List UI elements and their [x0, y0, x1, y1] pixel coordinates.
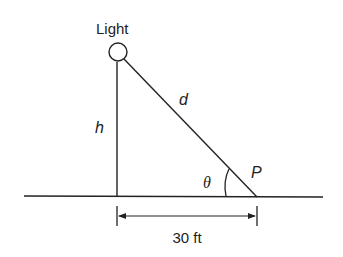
light-label: Light [96, 20, 129, 37]
light-pole-diagram: Light d h θ P 30 ft [0, 0, 343, 257]
point-label: P [251, 164, 262, 181]
hypotenuse-line [124, 59, 257, 197]
ground-line [24, 196, 323, 197]
distance-label: 30 ft [172, 229, 202, 246]
angle-arc [225, 169, 229, 196]
hypotenuse-label: d [179, 91, 189, 108]
arrowhead-left-icon [118, 213, 126, 219]
dimension-marker [117, 206, 257, 226]
angle-label: θ [203, 174, 211, 191]
arrowhead-right-icon [248, 213, 256, 219]
height-label: h [95, 119, 104, 136]
light-source-circle [109, 43, 127, 61]
